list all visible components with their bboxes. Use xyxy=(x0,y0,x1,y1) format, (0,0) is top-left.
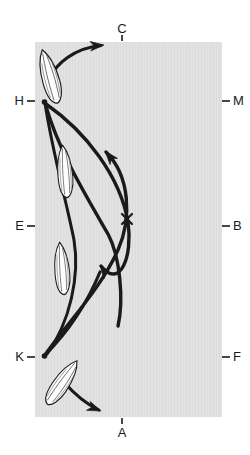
node-K xyxy=(42,353,48,359)
label-H: H xyxy=(8,94,24,107)
label-F: F xyxy=(233,350,249,363)
label-K: K xyxy=(8,350,24,363)
figure-root: C A H E K M B F xyxy=(0,0,250,455)
label-B: B xyxy=(233,219,249,232)
label-E: E xyxy=(8,219,24,232)
label-A: A xyxy=(115,426,129,439)
trajectory-diagram xyxy=(0,0,250,455)
node-H xyxy=(42,99,48,105)
label-M: M xyxy=(233,94,249,107)
label-C: C xyxy=(115,22,129,35)
